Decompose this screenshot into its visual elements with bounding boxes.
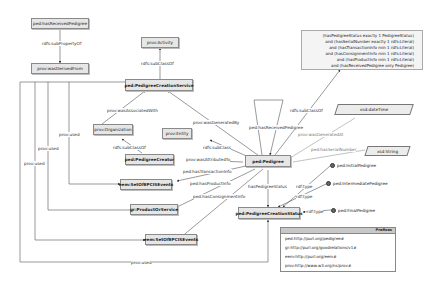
node-prov-activity[interactable]: prov:Activity [141, 37, 179, 48]
node-xsd-datetime[interactable]: xsd:dateTime [336, 104, 412, 115]
datatype-label: xsd:String [377, 149, 398, 154]
individual-intermediate-pedigree[interactable]: ped:IntermediatePedigree [326, 181, 388, 186]
edge-label-used-3: prov:used [24, 161, 45, 166]
individual-initial-pedigree[interactable]: ped:InitialPedigree [330, 163, 376, 168]
individual-label: ped:IntermediatePedigree [333, 181, 388, 186]
prefix-row: prov:http://www.w3.org/ns/prov# [281, 261, 395, 270]
individual-label: ped:FinalPedigree [338, 208, 375, 213]
edge-label-rdf-type-2: rdf:type [296, 194, 312, 199]
edge-label-has-consignment-info: ped:hasConsignmentInfo [193, 194, 245, 199]
restriction-box[interactable]: (hasPedigreeStatus exactly 1 PedigreeSta… [301, 30, 423, 70]
node-pedigree-creation-service[interactable]: ped:PedigreeCreationService [125, 79, 193, 91]
prefixes-panel: Prefixes ped:http://purl.org/pedigree# g… [280, 227, 396, 272]
node-prov-entity[interactable]: prov:Entity [162, 128, 192, 139]
edge-label-used-1: prov:used [59, 132, 80, 137]
edge-label-rdf-type-3: rdf:type [307, 209, 323, 214]
edge-label-was-generated-by: prov:wasGeneratedBy [193, 120, 239, 125]
node-set-of-epcis-events-1[interactable]: eem:SetOfEPCISEvents [120, 179, 172, 190]
node-xsd-string[interactable]: xsd:String [366, 146, 409, 156]
individual-label: ped:InitialPedigree [337, 163, 376, 168]
prefix-row: eem:http://purl.org/eem# [281, 252, 395, 261]
individual-icon [330, 163, 335, 168]
datatype-label: xsd:dateTime [360, 107, 388, 112]
restriction-line: and (hasReceivedPedigree only Pedigree) [302, 63, 414, 69]
edge-label-has-pedigree-status: hasPedigreeStatus [248, 184, 287, 189]
edge-label-has-serial-number: ped:hasSerialNumber [311, 147, 356, 152]
node-prov-organization[interactable]: prov:Organization [93, 124, 133, 135]
edge-label-has-received-pedigree-loop: ped:hasReceivedPedigree [249, 125, 303, 130]
prefix-row: gr:http://purl.org/goodrelations/v1# [281, 243, 395, 252]
edge-label-rdf-type-1: rdf:type [296, 184, 312, 189]
edge-label-has-transaction-info: ped:hasTransactionInfo [183, 169, 232, 174]
prefix-row: ped:http://purl.org/pedigree# [281, 234, 395, 243]
edge-label-sub-property-of: rdfs:subPropertyOf [42, 41, 81, 46]
node-has-received-pedigree[interactable]: ped:hasReceivedPedigree [31, 18, 89, 29]
node-was-derived-from[interactable]: prov:wasDerivedFrom [31, 63, 89, 74]
node-pedigree[interactable]: ped:Pedigree [245, 155, 291, 167]
edge-label-used-2: prov:used [38, 146, 59, 151]
node-pedigree-creation-status[interactable]: ped:PedigreeCreationStatus [238, 207, 300, 219]
edge-label-subclass-entity: rdfs:subClass [203, 145, 231, 150]
edge-label-has-product-info: ped:hasProductInfo [190, 181, 231, 186]
individual-final-pedigree[interactable]: ped:FinalPedigree [331, 208, 375, 213]
node-product-or-service[interactable]: gr:ProductOrService [130, 204, 178, 215]
individual-icon [331, 208, 336, 213]
edge-label-used-4: prov:used [131, 260, 152, 265]
edge-label-was-attributed-to: prov:wasAttributedTo [186, 157, 230, 162]
edge-label-was-generated-at: prov:wasGeneratedAt [298, 132, 343, 137]
edge-label-subclassof-activity: rdfs:subClassOf [141, 61, 174, 66]
edge-label-was-associated-with: prov:wasAssociatedWith [107, 108, 158, 113]
edge-label-subclassof-restriction: rdfs:subClassOf [290, 108, 323, 113]
node-set-of-epcis-events-2[interactable]: eem:SetOfEPCISEvents [145, 234, 197, 245]
edge-label-subclassof-org: rdfs:subClassOf [113, 145, 146, 150]
node-pedigree-creator[interactable]: ped:PedigreeCreator [125, 154, 174, 165]
individual-icon [326, 181, 331, 186]
